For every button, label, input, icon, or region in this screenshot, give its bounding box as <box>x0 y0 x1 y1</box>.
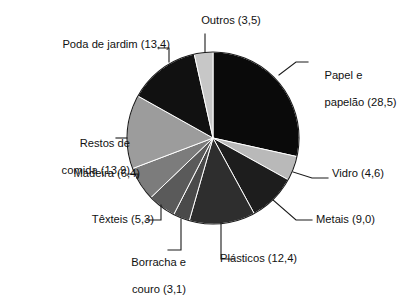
pie-label-restos-line2: comida (13,9) <box>62 164 130 176</box>
pie-label-texteis: Têxteis (5,3) <box>52 213 154 226</box>
pie-label-outros: Outros (3,5) <box>176 14 286 27</box>
leader-line-vidro <box>293 172 328 178</box>
pie-label-restos-line1: Restos de <box>80 137 130 149</box>
pie-label-papel-line1: Papel e <box>324 69 362 81</box>
pie-label-poda-de-jardim: Poda de jardim (13,4) <box>18 38 170 51</box>
pie-label-borracha-e-couro: Borracha e couro (3,1) <box>82 243 186 299</box>
pie-label-papel-e-papelao: Papel e papelão (28,5) <box>312 56 416 122</box>
pie-label-metais: Metais (9,0) <box>316 213 416 226</box>
leader-line-papel <box>279 62 308 75</box>
pie-label-vidro: Vidro (4,6) <box>332 167 418 180</box>
pie-slices <box>127 52 299 224</box>
pie-label-plasticos: Plásticos (12,4) <box>220 252 340 265</box>
pie-label-restos-de-comida: Restos de comida (13,9) <box>26 124 130 190</box>
pie-label-papel-line2: papelão (28,5) <box>324 96 396 108</box>
leader-line-metais <box>273 200 312 220</box>
pie-label-borracha-line1: Borracha e <box>131 256 186 268</box>
pie-label-borracha-line2: couro (3,1) <box>132 283 186 295</box>
